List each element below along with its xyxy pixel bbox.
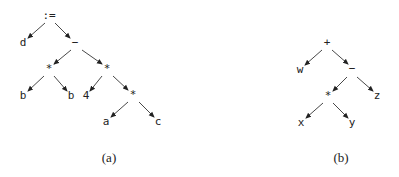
tree-edge-arrow — [54, 50, 71, 64]
tree-node-y: y — [349, 116, 356, 129]
tree-node-z: z — [374, 89, 381, 102]
tree-edge-arrow — [305, 50, 322, 65]
tree-node-assign: := — [42, 9, 56, 22]
tree-edge-arrow — [90, 76, 102, 91]
syntax-tree-a: :=d−**bb4*ac(a) — [20, 9, 162, 165]
tree-edge-arrow — [28, 76, 44, 91]
tree-node-w: w — [297, 63, 304, 76]
tree-node-d: d — [20, 36, 27, 49]
tree-edge-arrow — [54, 76, 67, 91]
tree-node-plus: + — [324, 36, 331, 49]
tree-node-b2: b — [68, 89, 75, 102]
tree-edge-arrow — [333, 103, 348, 118]
tree-node-minus: − — [349, 62, 356, 75]
tree-node-four: 4 — [83, 89, 90, 102]
tree-edge-arrow — [55, 23, 70, 38]
tree-node-b1: b — [20, 89, 27, 102]
tree-node-c: c — [155, 115, 162, 128]
tree-node-a: a — [103, 115, 110, 128]
tree-node-mul: * — [325, 89, 332, 102]
tree-edge-arrow — [111, 102, 128, 117]
tree-edge-arrow — [333, 77, 347, 91]
tree-edge-arrow — [306, 103, 323, 118]
tree-node-mul3: * — [130, 88, 137, 101]
subfigure-caption-a: (a) — [102, 150, 116, 165]
tree-edge-arrow — [113, 76, 128, 90]
subfigure-caption-b: (b) — [333, 150, 348, 165]
syntax-tree-b: +w−*zxy(b) — [297, 36, 381, 165]
tree-edge-arrow — [357, 77, 373, 91]
tree-node-minus: − — [72, 36, 79, 49]
tree-edge-arrow — [332, 50, 348, 64]
tree-edge-arrow — [139, 102, 154, 117]
tree-node-x: x — [298, 116, 305, 129]
tree-node-mul2: * — [104, 62, 111, 75]
tree-edge-arrow — [28, 23, 45, 38]
tree-node-mul1: * — [46, 62, 53, 75]
tree-edge-arrow — [82, 50, 102, 64]
expression-tree-diagram: :=d−**bb4*ac(a) +w−*zxy(b) — [0, 0, 399, 177]
